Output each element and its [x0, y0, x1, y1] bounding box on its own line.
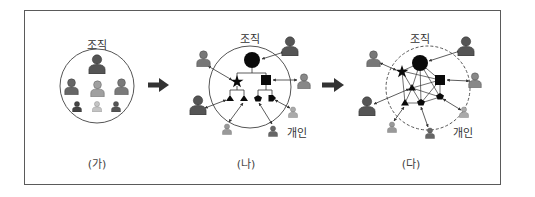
organization-label: 조직	[410, 30, 430, 46]
panel-ga	[60, 49, 134, 123]
person-icon	[359, 97, 375, 116]
person-icon	[91, 81, 105, 97]
pentagon-node-icon	[436, 93, 444, 100]
person-icon	[89, 55, 105, 74]
person-icon	[269, 126, 278, 137]
organization-label: 조직	[87, 36, 107, 52]
panel-caption: (다)	[402, 155, 421, 171]
transition-arrow-icon	[148, 78, 169, 92]
triangle-node-icon	[240, 95, 248, 101]
person-icon	[73, 101, 82, 112]
person-icon	[469, 73, 482, 88]
person-icon	[115, 79, 129, 95]
person-icon	[367, 51, 381, 67]
star-node-icon	[396, 65, 409, 77]
person-icon	[223, 124, 232, 135]
circle-node-icon	[412, 55, 428, 71]
individual-label: 개인	[453, 124, 473, 140]
person-icon	[282, 37, 298, 56]
square-node-icon	[261, 75, 271, 85]
person-icon	[197, 51, 211, 67]
pentagon-node-icon	[254, 95, 262, 102]
triangle-node-icon	[401, 99, 409, 106]
person-icon	[65, 79, 79, 95]
star-node-icon	[231, 75, 244, 87]
person-icon	[289, 107, 298, 118]
panel-na	[190, 37, 310, 137]
diagram-canvas	[0, 0, 535, 197]
person-icon	[190, 96, 206, 115]
person-icon	[93, 101, 102, 112]
organization-dashed-circle	[386, 46, 470, 130]
person-icon	[460, 107, 469, 118]
square-node-icon	[435, 75, 445, 85]
panel-caption: (나)	[237, 155, 256, 171]
person-icon	[458, 37, 474, 56]
circle-node-icon	[244, 52, 260, 68]
triangle-node-icon	[226, 95, 234, 101]
panel-caption: (가)	[88, 155, 107, 171]
pentagon-node-icon	[269, 95, 277, 102]
individual-label: 개인	[287, 124, 307, 140]
person-icon	[388, 122, 397, 133]
organization-label: 조직	[240, 30, 260, 46]
transition-arrow-icon	[322, 78, 344, 92]
person-icon	[298, 74, 311, 89]
person-icon	[112, 101, 121, 112]
